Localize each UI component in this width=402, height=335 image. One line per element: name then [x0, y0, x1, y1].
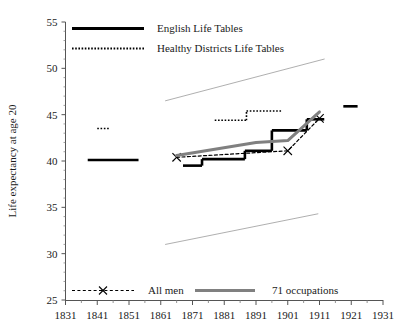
x-tick-label: 1851: [118, 309, 140, 321]
legend-label-all-men: All men: [148, 284, 184, 296]
x-tick-label: 1921: [340, 309, 362, 321]
y-tick-label: 55: [47, 16, 59, 28]
x-tick-label: 1871: [182, 309, 204, 321]
life-expectancy-line-chart: 25303540455055 1831184118511861187118811…: [0, 0, 402, 335]
x-tick-label: 1901: [277, 309, 299, 321]
y-tick-label: 25: [47, 294, 59, 306]
x-tick-label: 1861: [150, 309, 172, 321]
x-tick-label: 1911: [309, 309, 331, 321]
x-axis-tick-labels: 1831184118511861187118811891190119111921…: [55, 309, 395, 321]
y-tick-label: 40: [47, 155, 59, 167]
legend-label-english-life-tables: English Life Tables: [157, 22, 243, 34]
x-tick-label: 1881: [213, 309, 235, 321]
y-tick-label: 50: [47, 62, 59, 74]
y-tick-label: 45: [47, 109, 59, 121]
legend-label-71-occupations: 71 occupations: [272, 284, 338, 296]
chart-container: 25303540455055 1831184118511861187118811…: [0, 0, 402, 335]
legend-label-healthy-districts-life-tables: Healthy Districts Life Tables: [157, 42, 284, 54]
x-tick-label: 1891: [245, 309, 267, 321]
x-tick-label: 1841: [86, 309, 108, 321]
x-tick-label: 1931: [372, 309, 394, 321]
y-tick-label: 35: [47, 201, 59, 213]
y-tick-label: 30: [47, 248, 59, 260]
x-tick-label: 1831: [55, 309, 77, 321]
y-axis-title: Life expectancy at age 20: [6, 104, 18, 217]
